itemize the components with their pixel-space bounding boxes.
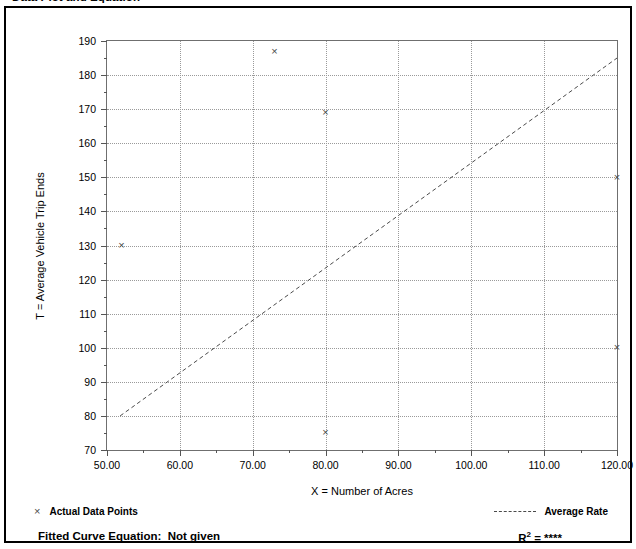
y-tick-label: 120 [78,274,96,286]
legend-item-average-rate: Average Rate [494,506,608,517]
y-tick-label: 90 [84,376,96,388]
x-tick-minor [508,450,509,453]
x-tick-major [180,450,181,456]
y-tick-label: 100 [78,342,96,354]
y-tick-label: 190 [78,35,96,47]
x-tick-label: 60.00 [167,459,193,471]
chart-frame: T = Average Vehicle Trip Ends 7080901001… [4,6,632,543]
y-axis-title: T = Average Vehicle Trip Ends [32,40,48,451]
x-tick-major [398,450,399,456]
x-tick-label: 110.00 [528,459,559,471]
legend-item-actual-data-points: × Actual Data Points [34,506,138,517]
x-tick-label: 50.00 [94,459,120,471]
x-tick-label: 100.00 [455,459,487,471]
x-axis-title: X = Number of Acres [106,485,618,497]
y-axis-title-text: T = Average Vehicle Trip Ends [34,172,46,319]
y-tick-label: 110 [79,308,96,320]
r-squared-letter: R [518,532,526,544]
dashed-line-icon [494,511,536,512]
y-tick-label: 130 [78,240,96,252]
x-marker-icon: × [34,506,40,517]
y-tick-label: 160 [78,137,96,149]
x-tick-label: 70.00 [240,459,266,471]
r-squared-exponent: 2 [527,530,531,539]
x-tick-label: 90.00 [385,459,411,471]
data-point-marker: × [269,46,280,57]
data-point-marker: × [116,240,127,251]
r-squared-value: R2 = **** [518,530,562,544]
fitted-curve-equation: Fitted Curve Equation: Not given [38,530,220,542]
x-tick-major [617,450,618,456]
legend-label-actual-data-points: Actual Data Points [49,506,137,517]
equation-row: Fitted Curve Equation: Not given R2 = **… [6,530,634,549]
x-tick-major [471,450,472,456]
y-tick-label: 140 [78,205,96,217]
average-rate-trendline [107,41,617,450]
y-tick-label: 170 [78,103,96,115]
page-title: Data Plot and Equation [12,0,140,3]
r-squared-equals-value: = **** [534,532,562,544]
data-point-marker: × [612,342,623,353]
data-point-marker: × [320,107,331,118]
x-tick-label: 80.00 [312,459,338,471]
x-tick-minor [289,450,290,453]
x-tick-major [544,450,545,456]
y-tick-label: 80 [84,410,96,422]
x-tick-minor [435,450,436,453]
x-tick-minor [216,450,217,453]
y-tick-label: 180 [78,69,96,81]
data-point-marker: × [612,172,623,183]
chart-legend: × Actual Data Points Average Rate [6,506,634,526]
x-tick-major [253,450,254,456]
y-tick-label: 150 [78,171,96,183]
y-tick-label: 70 [84,444,96,456]
x-tick-major [107,450,108,456]
plot-area: 708090100110120130140150160170180190 50.… [106,40,618,451]
x-tick-minor [143,450,144,453]
x-tick-minor [581,450,582,453]
legend-label-average-rate: Average Rate [544,506,608,517]
data-point-marker: × [320,427,331,438]
x-tick-major [326,450,327,456]
x-tick-minor [362,450,363,453]
x-tick-label: 120.00 [601,459,633,471]
